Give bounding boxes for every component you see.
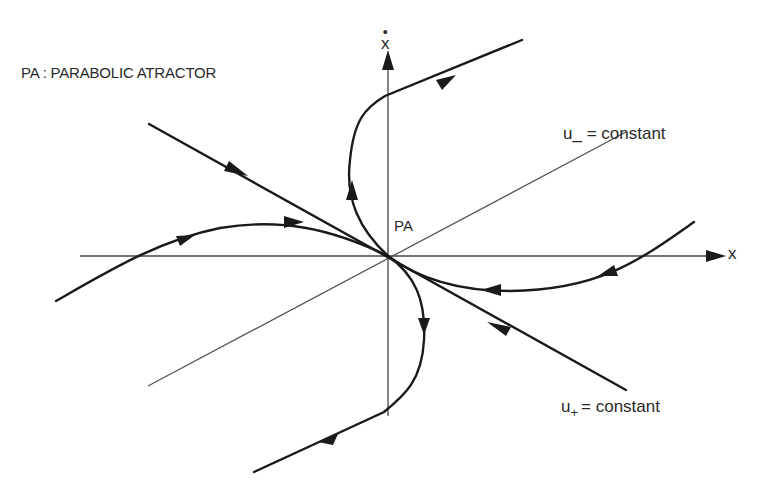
- diagram-title: PA : PARABOLIC ATRACTOR: [21, 64, 216, 81]
- arrow-icon: [176, 235, 195, 246]
- u-minus-label: u_ = constant: [563, 124, 666, 144]
- x-axis-arrow-icon: [706, 250, 726, 262]
- u-minus-var: u_: [563, 124, 582, 143]
- trajectory-upper: [349, 40, 522, 256]
- y-axis-arrow-icon: [382, 50, 394, 70]
- trajectory-lower: [254, 256, 424, 472]
- arrow-icon: [481, 284, 501, 296]
- arrow-icon: [418, 318, 430, 335]
- u-plus-subscript: +: [570, 405, 578, 420]
- arrow-icon: [436, 75, 456, 90]
- u-minus-text: = constant: [582, 124, 666, 143]
- u-plus-label: u+= constant: [561, 397, 660, 420]
- y-axis-letter: x: [381, 34, 390, 53]
- y-axis-label: • x: [381, 29, 390, 52]
- arrow-icon: [318, 434, 338, 445]
- x-axis-label: x: [728, 244, 737, 264]
- trajectory-left: [56, 224, 388, 301]
- u-plus-text: = constant: [581, 397, 660, 416]
- arrow-icon: [346, 180, 358, 200]
- u-minus-line: [148, 132, 626, 386]
- arrow-icon: [598, 265, 618, 276]
- origin-label: PA: [394, 217, 413, 234]
